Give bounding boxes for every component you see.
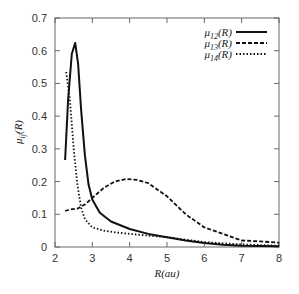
svg-text:2: 2 (52, 252, 58, 264)
svg-text:5: 5 (164, 252, 170, 264)
series-dashed (65, 179, 279, 243)
svg-text:0.5: 0.5 (32, 77, 47, 89)
y-axis-label: μij(R) (12, 120, 27, 145)
svg-text:0.7: 0.7 (32, 12, 47, 24)
y-axis-ticks: 00.10.20.30.40.50.60.7 (32, 12, 279, 253)
svg-text:7: 7 (239, 252, 245, 264)
svg-text:6: 6 (201, 252, 207, 264)
svg-text:0: 0 (41, 241, 47, 253)
x-axis-label: R(au) (153, 267, 179, 280)
plot-frame (55, 18, 279, 247)
svg-text:0.4: 0.4 (32, 110, 47, 122)
svg-text:0.1: 0.1 (32, 208, 47, 220)
svg-text:μij(R): μij(R) (12, 120, 27, 145)
series-lines (65, 43, 279, 246)
legend-label: μ14(R) (203, 48, 232, 63)
svg-text:4: 4 (127, 252, 133, 264)
svg-text:0.3: 0.3 (32, 143, 47, 155)
svg-text:3: 3 (89, 252, 95, 264)
svg-text:8: 8 (276, 252, 282, 264)
chart: 2345678 00.10.20.30.40.50.60.7 μ12(R)μ13… (0, 0, 299, 294)
series-solid (65, 43, 279, 246)
series-dotted (66, 72, 279, 246)
legend: μ12(R)μ13(R)μ14(R) (203, 26, 267, 63)
x-axis-ticks: 2345678 (52, 18, 282, 264)
svg-text:0.2: 0.2 (32, 176, 47, 188)
svg-text:0.6: 0.6 (32, 45, 47, 57)
